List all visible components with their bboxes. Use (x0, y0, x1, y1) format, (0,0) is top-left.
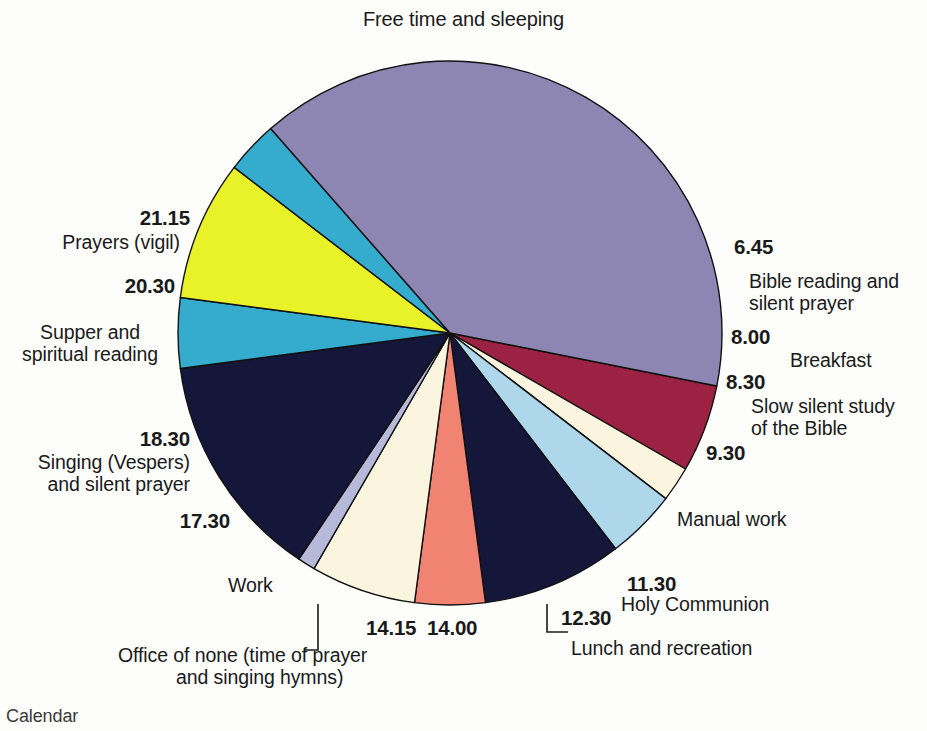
slice-label-work: Work (228, 575, 273, 597)
slice-label-prayers-vigil: Prayers (vigil) (0, 232, 180, 254)
time-1400: 14.00 (427, 617, 477, 640)
label-1230: 12.30 (561, 607, 611, 630)
slice-label-lunch: Lunch and recreation (571, 638, 752, 660)
label-singing-vespers: Singing (Vespers) and silent prayer (0, 452, 190, 496)
chart-title: Free time and sleeping (0, 8, 927, 31)
label-slow-silent-study: Slow silent study of the Bible (751, 396, 895, 440)
slice-label-vespers-line1: Singing (Vespers) (0, 452, 190, 474)
slice-label-office-of-none-line1: Office of none (time of prayer (118, 645, 308, 667)
label-holy-communion: Holy Communion (621, 594, 769, 616)
label-office-of-none: Office of none (time of prayer and singi… (118, 645, 308, 689)
label-1400: 14.00 (427, 617, 477, 640)
time-0800: 8.00 (731, 326, 770, 349)
time-1230: 12.30 (561, 607, 611, 630)
time-0930: 9.30 (706, 442, 745, 465)
label-0645: 6.45 (734, 236, 773, 259)
slice-label-vespers-line2: and silent prayer (0, 474, 190, 496)
slice-label-holy-communion: Holy Communion (621, 594, 769, 616)
label-1830: 18.30 (20, 428, 190, 451)
label-breakfast: Breakfast (790, 350, 871, 372)
figure-caption: Calendar (6, 706, 78, 731)
slice-label-slow-study-line1: Slow silent study (751, 396, 895, 418)
time-0645: 6.45 (734, 236, 773, 259)
slice-label-bible-reading-line1: Bible reading and (749, 271, 899, 293)
label-supper: Supper and spiritual reading (0, 322, 180, 366)
slice-label-supper-line2: spiritual reading (0, 344, 180, 366)
label-1415: 14.15 (366, 617, 416, 640)
slice-label-slow-study-line2: of the Bible (751, 418, 895, 440)
time-1415: 14.15 (366, 617, 416, 640)
slice-label-manual-work: Manual work (677, 509, 786, 531)
slice-label-breakfast: Breakfast (790, 350, 871, 372)
time-2030: 20.30 (0, 275, 175, 298)
time-0830: 8.30 (726, 371, 765, 394)
pie-slices-group (178, 61, 722, 605)
label-manual-work: Manual work (677, 509, 786, 531)
pie-chart-figure: Free time and sleeping 6.45 Bible readin… (0, 0, 927, 731)
label-0930: 9.30 (706, 442, 745, 465)
time-1730: 17.30 (30, 510, 230, 533)
time-1830: 18.30 (20, 428, 190, 451)
label-0830: 8.30 (726, 371, 765, 394)
label-2115: 21.15 (0, 207, 190, 230)
time-2115: 21.15 (0, 207, 190, 230)
label-0800: 8.00 (731, 326, 770, 349)
slice-label-bible-reading-line2: silent prayer (749, 293, 899, 315)
label-2030: 20.30 (0, 275, 175, 298)
label-bible-reading: Bible reading and silent prayer (749, 271, 899, 315)
slice-label-supper-line1: Supper and (0, 322, 180, 344)
slice-label-office-of-none-line2: and singing hymns) (118, 667, 308, 689)
label-lunch-recreation: Lunch and recreation (571, 638, 752, 660)
label-prayers-vigil: Prayers (vigil) (0, 232, 180, 254)
label-work: Work (228, 575, 273, 597)
label-1730: 17.30 (30, 510, 230, 533)
